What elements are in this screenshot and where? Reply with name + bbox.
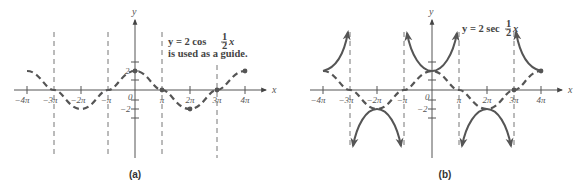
svg-text:y = 2 cos: y = 2 cos [168, 36, 206, 47]
svg-text:−2π: −2π [70, 95, 86, 105]
secant-branch-1 [323, 32, 348, 71]
secant-branch-3-left [407, 33, 432, 71]
secant-branch-5 [516, 32, 541, 71]
svg-text:2π: 2π [482, 95, 492, 105]
y-axis-label-a: y [131, 6, 137, 17]
svg-text:−3π: −3π [338, 95, 354, 105]
svg-text:y = 2 sec: y = 2 sec [462, 23, 500, 34]
svg-text:3π: 3π [508, 95, 519, 105]
svg-text:−3π: −3π [42, 95, 58, 105]
svg-text:−4π: −4π [310, 95, 326, 105]
x-axis-label-b: x [567, 84, 573, 95]
figure: x y 0 2 −2 −4π −3π −2π −π π 2π 3π 4π y =… [0, 0, 576, 191]
svg-text:−π: −π [397, 95, 408, 105]
svg-text:4π: 4π [536, 95, 546, 105]
annotation-a: y = 2 cos 1 2 x is used as a guide. [168, 31, 248, 59]
svg-text:π: π [457, 95, 462, 105]
y-axis-label-b: y [428, 6, 434, 17]
y-tick-2-a: 2 [125, 66, 130, 76]
svg-text:2: 2 [506, 27, 511, 38]
secant-branch-2-left [353, 109, 377, 146]
chart-a: x y 0 2 −2 −4π −3π −2π −π π 2π 3π 4π y =… [14, 6, 277, 180]
origin-label-a: 0 [128, 92, 133, 102]
panel-label-a: (a) [129, 169, 141, 180]
svg-text:π: π [160, 95, 165, 105]
secant-branch-3-right [432, 33, 457, 71]
y-tick-neg2-a: −2 [120, 104, 131, 114]
y-tick-neg2-b: −2 [417, 104, 428, 114]
annotation-b: y = 2 sec 1 2 x [462, 18, 518, 38]
secant-branch-2-right [377, 109, 401, 146]
svg-text:x: x [512, 23, 518, 34]
chart-b: x y 0 −2 −4π −3π −2π −π π 2π 3π 4π y = 2… [310, 6, 573, 180]
svg-text:−2π: −2π [366, 95, 382, 105]
svg-text:3π: 3π [211, 95, 222, 105]
svg-text:4π: 4π [240, 95, 250, 105]
x-axis-label-a: x [271, 84, 277, 95]
secant-branch-4-left [462, 109, 487, 146]
svg-text:x: x [228, 36, 234, 47]
svg-text:−4π: −4π [14, 95, 30, 105]
svg-text:is used as a guide.: is used as a guide. [168, 48, 248, 59]
svg-text:−π: −π [101, 95, 112, 105]
secant-branch-4-right [487, 109, 511, 146]
origin-label-b: 0 [425, 92, 430, 102]
panel-label-b: (b) [439, 169, 452, 180]
svg-text:2π: 2π [185, 95, 195, 105]
